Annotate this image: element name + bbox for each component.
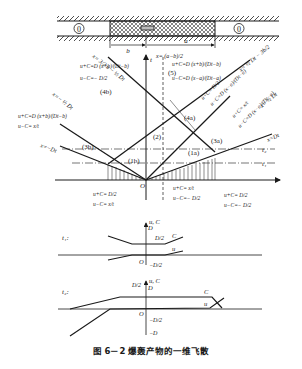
figure-caption: 图 6－2 爆轰产物的一维飞散 bbox=[93, 346, 210, 356]
t1-neg-Dhalf-label: −D/2 bbox=[149, 262, 162, 268]
region-3b-label: (3b) bbox=[82, 143, 94, 151]
t-axis-label: t bbox=[150, 56, 153, 64]
initiation-point bbox=[141, 26, 154, 30]
label-x-eq-neg-Dt: x=−Dt bbox=[39, 142, 58, 154]
bottom-wall bbox=[57, 36, 279, 41]
line-x-eq-Dt bbox=[146, 134, 272, 180]
t2-C-label: C bbox=[204, 288, 209, 295]
label-x-eq-neg-half-Dt: x=− ½ Dt bbox=[51, 90, 75, 110]
line-x-eq-neg-half-Dt bbox=[60, 124, 146, 180]
region-0-right: 0 bbox=[237, 25, 241, 34]
t1-O-label: O bbox=[139, 258, 144, 265]
t2-neg-Dhalf-label: −D/2 bbox=[149, 317, 162, 323]
t2-Dhalf-label: D/2 bbox=[131, 282, 141, 288]
dim-a-label: a bbox=[184, 37, 188, 45]
t1-u-label: u bbox=[172, 245, 176, 252]
formula-3b-top: u+C=D (x+b)/(Dt−b) bbox=[18, 113, 67, 120]
tube: 0 0 b a bbox=[57, 16, 279, 55]
t1-Dhalf-label: D/2 bbox=[154, 235, 164, 241]
xt-diagram: t O x= (a−b)/2 t₁ t₂ bbox=[18, 44, 280, 208]
region-1a-label: (1a) bbox=[188, 149, 200, 157]
profile-t2: u, C D D/2 t₂: C u O −D/2 −D bbox=[58, 277, 262, 336]
region-2-label: (2) bbox=[153, 133, 162, 141]
formula-1a-bottom: u−C=− D/2 bbox=[173, 195, 200, 201]
top-wall bbox=[57, 16, 279, 21]
t2-axis-label: u, C bbox=[149, 277, 161, 284]
region-0-left: 0 bbox=[77, 25, 81, 34]
t1-label: t₁ bbox=[262, 160, 266, 168]
dim-b-label: b bbox=[126, 47, 130, 55]
t2-label: t₂ bbox=[262, 146, 267, 154]
line-x-eq-3a2-minus-half-Dt bbox=[108, 57, 215, 152]
region-4a-label: (4a) bbox=[184, 114, 196, 122]
origin-label: O bbox=[140, 182, 145, 190]
formula-1b-top: u+C= D/2 bbox=[93, 191, 117, 197]
formula-1a-top: u+C= x/t bbox=[173, 185, 194, 191]
formula-4b-top: u+C=D (x+b)/(Dt−b) bbox=[80, 63, 129, 70]
region-1b-label: (1b) bbox=[128, 157, 140, 165]
formula-5-top: u+C=D (x+b)/(Dt−b) bbox=[172, 61, 221, 68]
formula-2-bottom: u−C=− D/2 bbox=[224, 202, 251, 208]
t1-D-label: D bbox=[147, 224, 153, 231]
detonation-diagram: 0 0 b a t O x= (a−b)/2 t₁ t₂ bbox=[0, 0, 302, 369]
t2-neg-D-label: −D bbox=[149, 330, 158, 336]
region-4b-label: (4b) bbox=[100, 88, 112, 96]
label-x-eq-Dt: x=Dt bbox=[265, 132, 280, 143]
formula-3b-bottom: u−C= x/t bbox=[18, 123, 39, 129]
t2-O-label: O bbox=[139, 310, 144, 317]
profile-t1: u, C D D/2 t₁: C u O −D/2 bbox=[58, 218, 262, 268]
formula-2-top: u+C= D/2 bbox=[224, 192, 248, 198]
t2-label: t₂: bbox=[62, 288, 69, 296]
t1-C-label: C bbox=[172, 232, 177, 239]
explosive-charge bbox=[110, 21, 215, 36]
t2-D-label: D bbox=[147, 284, 153, 291]
center-line-label: x= (a−b)/2 bbox=[155, 53, 183, 60]
t1-label: t₁: bbox=[62, 234, 69, 242]
t2-u-label: u bbox=[204, 300, 208, 307]
region-3a-label: (3a) bbox=[211, 137, 223, 145]
formula-4b-bottom: u−C=− D/2 bbox=[80, 75, 107, 81]
formula-1b-bottom: u−C= x/t bbox=[93, 201, 114, 207]
t1-u-curve bbox=[108, 251, 183, 260]
